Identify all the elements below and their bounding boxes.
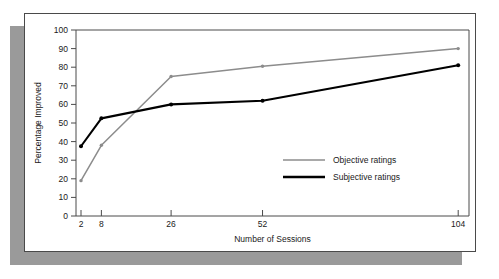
y-tick-label: 40 — [59, 137, 69, 147]
figure-card: 0102030405060708090100282652104Number of… — [24, 13, 476, 252]
y-tick-label: 70 — [59, 81, 69, 91]
x-tick-label: 8 — [99, 219, 104, 229]
chart-figure: 0102030405060708090100282652104Number of… — [0, 0, 499, 279]
legend-label-2: Subjective ratings — [333, 172, 400, 182]
y-tick-label: 60 — [59, 99, 69, 109]
x-tick-label: 2 — [79, 219, 84, 229]
y-tick-label: 80 — [59, 62, 69, 72]
y-tick-label: 20 — [59, 174, 69, 184]
x-tick-label: 52 — [258, 219, 268, 229]
axis-frame — [76, 30, 469, 216]
y-tick-label: 30 — [59, 155, 69, 165]
series-line-2 — [81, 65, 458, 146]
data-point — [456, 63, 460, 67]
y-tick-label: 10 — [59, 192, 69, 202]
legend-label-1: Objective ratings — [333, 155, 396, 165]
plot-area-wrapper: 0102030405060708090100282652104Number of… — [25, 14, 477, 253]
data-point — [261, 65, 264, 68]
data-point — [456, 47, 459, 50]
x-tick-label: 26 — [166, 219, 176, 229]
data-point — [169, 102, 173, 106]
y-tick-label: 90 — [59, 44, 69, 54]
data-point — [99, 116, 103, 120]
y-axis-title: Percentage Improved — [33, 82, 43, 164]
y-tick-label: 0 — [63, 211, 68, 221]
data-point — [100, 144, 103, 147]
line-chart: 0102030405060708090100282652104Number of… — [25, 14, 477, 253]
data-point — [261, 99, 265, 103]
data-point — [79, 179, 82, 182]
data-point — [79, 144, 83, 148]
x-tick-label: 104 — [451, 219, 465, 229]
y-tick-label: 100 — [54, 25, 68, 35]
y-tick-label: 50 — [59, 118, 69, 128]
series-line-1 — [81, 49, 458, 181]
x-axis-title: Number of Sessions — [234, 234, 311, 244]
data-point — [169, 75, 172, 78]
